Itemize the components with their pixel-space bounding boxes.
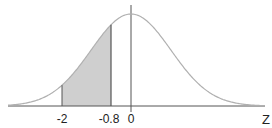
tick-label-0: 0 [128,112,135,126]
tick-label-neg08: -0.8 [99,112,120,126]
shaded-area [62,25,111,106]
normal-distribution-chart: -2 -0.8 0 Z [0,0,272,128]
tick-label-neg2: -2 [57,112,68,126]
normal-curve [8,14,265,106]
axis-label-z: Z [262,112,270,127]
